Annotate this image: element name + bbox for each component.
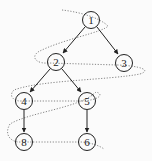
node-3-label: 3 (121, 57, 127, 69)
edge-2-5 (62, 69, 81, 92)
edge-2-4 (30, 69, 50, 92)
node-2: 2 (48, 54, 65, 71)
node-1: 1 (83, 12, 100, 29)
traversal-path (8, 10, 145, 149)
node-1-label: 1 (88, 14, 94, 26)
edge-1-2 (63, 27, 85, 53)
node-8: 8 (16, 134, 33, 151)
node-3: 3 (116, 55, 133, 72)
node-8-label: 8 (21, 136, 27, 148)
tree-diagram: 1 2 3 4 5 8 6 (0, 0, 152, 161)
tree-svg: 1 2 3 4 5 8 6 (0, 0, 152, 161)
edges (24, 27, 118, 132)
edge-1-3 (97, 27, 118, 54)
node-5-label: 5 (84, 95, 90, 107)
node-6-label: 6 (84, 136, 90, 148)
node-4-label: 4 (21, 95, 27, 107)
node-2-label: 2 (53, 56, 59, 68)
